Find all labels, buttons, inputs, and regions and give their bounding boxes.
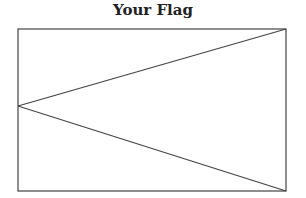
flag-diagram bbox=[0, 0, 306, 198]
flag-border bbox=[18, 29, 286, 191]
